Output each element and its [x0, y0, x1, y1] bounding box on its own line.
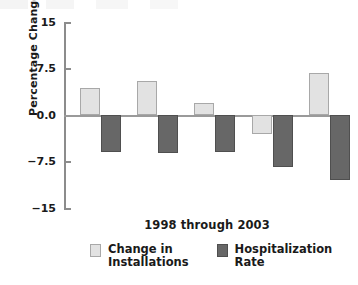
legend-swatch-dark-icon [217, 244, 228, 257]
bar-hospitalization-rate-1998 [101, 115, 121, 152]
bar-chart-figure: Percentage Change 15 7.5 0.0 −7.5 −15 19… [0, 0, 358, 285]
legend-item-hospitalization-rate: Hospitalization Rate [217, 243, 358, 269]
bar-change-in-installations-2001 [252, 115, 272, 134]
bar-change-in-installations-1998 [80, 88, 100, 115]
legend-label-hospitalization-rate: Hospitalization Rate [235, 243, 358, 269]
y-tick-label-neg-15: −15 [31, 202, 56, 215]
chart-legend: Change in Installations Hospitalization … [64, 243, 358, 269]
plot-area: 15 7.5 0.0 −7.5 −15 [64, 22, 350, 210]
scan-artifact [0, 0, 358, 9]
x-axis-caption: 1998 through 2003 [64, 218, 350, 232]
bar-hospitalization-rate-1999 [158, 115, 178, 153]
legend-item-change-in-installations: Change in Installations [90, 243, 189, 269]
bar-hospitalization-rate-2001 [273, 115, 293, 167]
bar-group-container [64, 22, 350, 210]
bar-change-in-installations-1999 [137, 81, 157, 115]
y-tick-label-15: 15 [41, 16, 56, 29]
bar-change-in-installations-2002 [309, 73, 329, 115]
bar-hospitalization-rate-2000 [215, 115, 235, 152]
y-tick-label-0: 0.0 [37, 109, 57, 122]
y-tick-label-7-5: 7.5 [37, 62, 57, 75]
bar-hospitalization-rate-2002 [330, 115, 350, 180]
legend-label-change-in-installations: Change in Installations [108, 243, 189, 269]
legend-swatch-light-icon [90, 244, 101, 257]
bar-change-in-installations-2000 [194, 103, 214, 115]
y-tick-label-neg-7-5: −7.5 [27, 155, 56, 168]
